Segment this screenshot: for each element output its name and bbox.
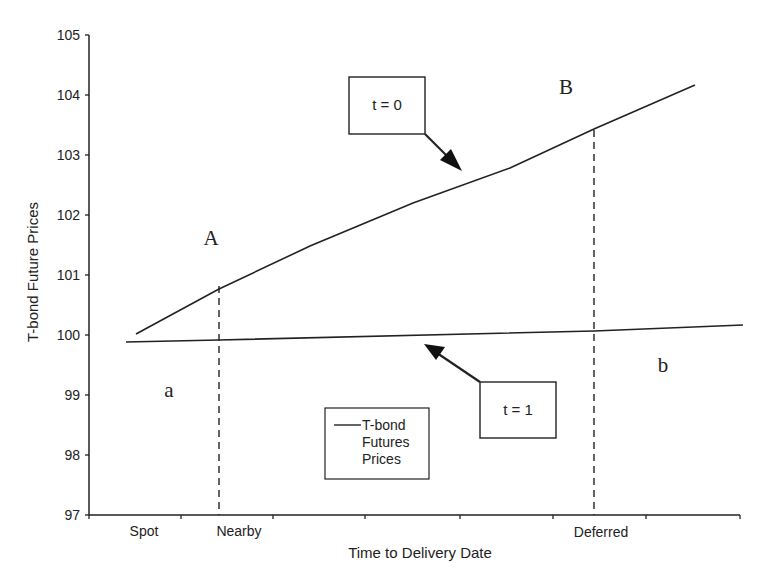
label-B: B — [559, 75, 573, 99]
annotation-t0-text: t = 0 — [372, 96, 402, 113]
y-tick-97: 97 — [64, 507, 80, 523]
legend-text-line2: Futures — [362, 434, 409, 450]
x-tick-spot: Spot — [130, 523, 159, 539]
y-axis-title: T-bond Future Prices — [24, 202, 41, 342]
y-tick-105: 105 — [57, 27, 81, 43]
y-tick-103: 103 — [57, 147, 81, 163]
arrow-up-left-icon — [424, 344, 445, 360]
legend-text-line1: T-bond — [362, 417, 406, 433]
y-tick-98: 98 — [64, 447, 80, 463]
y-tick-100: 100 — [57, 327, 81, 343]
y-tick-102: 102 — [57, 207, 81, 223]
x-axis-title: Time to Delivery Date — [348, 544, 492, 561]
label-a: a — [164, 378, 174, 402]
label-A: A — [203, 226, 219, 250]
annotation-t1-text: t = 1 — [503, 401, 533, 418]
x-tick-nearby: Nearby — [216, 523, 261, 539]
x-axis: Spot Nearby Deferred Time to Delivery Da… — [89, 515, 740, 561]
y-tick-99: 99 — [64, 387, 80, 403]
annotation-t0: t = 0 — [349, 77, 462, 171]
annotation-t1: t = 1 — [424, 344, 556, 438]
legend-text-line3: Prices — [362, 451, 401, 467]
legend: T-bond Futures Prices — [325, 408, 429, 479]
x-tick-deferred: Deferred — [574, 524, 628, 540]
y-axis: 105 104 103 102 101 100 99 98 97 T-bond … — [24, 27, 89, 523]
chart-canvas: 105 104 103 102 101 100 99 98 97 T-bond … — [0, 0, 771, 583]
y-tick-104: 104 — [57, 87, 81, 103]
y-tick-101: 101 — [57, 267, 81, 283]
label-b: b — [658, 353, 669, 377]
